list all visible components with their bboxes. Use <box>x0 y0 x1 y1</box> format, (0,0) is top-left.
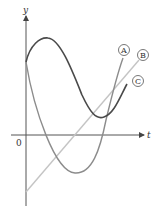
y-axis-label: y <box>22 5 29 15</box>
graph: y t 0 A B C <box>0 0 158 212</box>
svg-text:C: C <box>135 77 141 86</box>
origin-label: 0 <box>16 138 22 148</box>
curve-c <box>26 38 127 118</box>
label-b: B <box>138 50 149 61</box>
diagram: y t 0 A B C <box>0 0 158 212</box>
label-c: C <box>133 76 144 87</box>
t-axis-label: t <box>147 130 151 140</box>
svg-text:B: B <box>140 51 146 60</box>
svg-text:A: A <box>120 46 127 55</box>
label-a: A <box>119 45 130 56</box>
